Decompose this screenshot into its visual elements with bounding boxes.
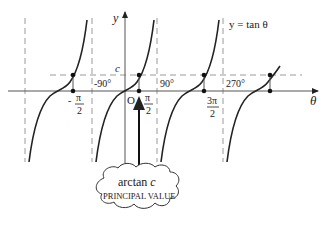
point-dot xyxy=(71,73,76,78)
svg-text:-: - xyxy=(68,95,71,106)
function-label: y = tan θ xyxy=(229,18,268,30)
c-label: c xyxy=(115,62,120,74)
deg-label-90: 90° xyxy=(160,78,174,89)
deg-label-neg90: -90° xyxy=(94,78,111,89)
svg-text:2: 2 xyxy=(210,108,215,119)
svg-text:π: π xyxy=(145,92,150,103)
tick-label-3pi-2: 3π 2 xyxy=(207,95,219,119)
tick-label-neg-pi-2: - π 2 xyxy=(68,92,84,116)
axis-dot xyxy=(202,89,207,94)
svg-text:π: π xyxy=(76,92,81,103)
point-dot xyxy=(202,73,207,78)
axis-dot xyxy=(268,89,273,94)
svg-text:3π: 3π xyxy=(207,95,217,106)
x-axis-label: θ xyxy=(310,93,317,108)
point-dot xyxy=(137,73,142,78)
svg-text:2: 2 xyxy=(146,105,151,116)
axis-dot xyxy=(137,89,142,94)
callout-line1: arctan c xyxy=(118,175,156,189)
tick-label-pi-2: π 2 xyxy=(144,92,153,116)
point-dot xyxy=(268,73,273,78)
tan-graph: y θ y = tan θ c O -90° 90° 270° - π 2 π … xyxy=(0,0,326,228)
svg-text:2: 2 xyxy=(77,105,82,116)
principal-value-cloud: arctan c PRINCIPAL VALUE xyxy=(96,163,179,208)
asymptotes xyxy=(25,18,223,162)
y-axis-label: y xyxy=(112,11,119,25)
callout-line2: PRINCIPAL VALUE xyxy=(103,191,176,201)
origin-label: O xyxy=(127,94,135,106)
deg-label-270: 270° xyxy=(226,78,245,89)
axis-dot xyxy=(71,89,76,94)
